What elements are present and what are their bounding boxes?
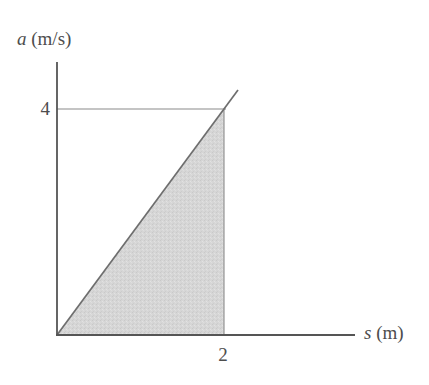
y-axis-label: a (m/s) — [17, 29, 71, 48]
y-axis-symbol: a — [17, 28, 27, 49]
y-axis-tick-label-4: 4 — [32, 99, 50, 118]
x-axis-unit-text: (m) — [376, 322, 403, 343]
x-axis-label: s (m) — [364, 323, 404, 342]
y-axis-unit-text: (m/s) — [31, 28, 71, 49]
x-axis-tick-label-2: 2 — [214, 345, 232, 364]
figure-container: a (m/s) s (m) 4 2 — [0, 0, 429, 385]
